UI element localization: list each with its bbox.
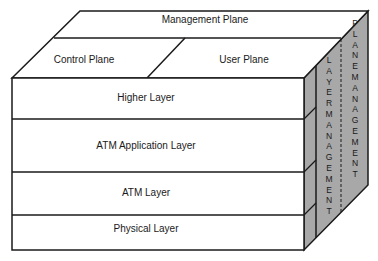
svg-text:A: A [352,40,358,50]
svg-text:N: N [352,50,358,60]
svg-text:A: A [326,66,332,76]
svg-text:T: T [352,169,357,179]
svg-text:E: E [352,148,358,158]
atm-layer-label: ATM Layer [122,187,171,198]
svg-text:Y: Y [326,77,332,87]
layer-management-label: LAYERMANAGEMENT [325,55,332,216]
svg-text:N: N [326,131,332,141]
svg-text:L: L [353,29,358,39]
svg-text:M: M [351,137,358,147]
svg-text:M: M [325,109,332,119]
svg-text:M: M [325,174,332,184]
higher-layer-label: Higher Layer [117,92,175,103]
physical-layer-label: Physical Layer [113,223,179,234]
svg-text:N: N [352,94,358,104]
atm-reference-model-diagram: Management Plane Control Plane User Plan… [0,0,378,261]
svg-text:N: N [326,195,332,205]
atm-application-layer-label: ATM Application Layer [96,140,196,151]
control-plane-label: Control Plane [54,54,115,65]
plane-management-label: PLANEMANAGEMENT [351,18,358,179]
svg-text:E: E [326,163,332,173]
svg-text:T: T [326,206,331,216]
svg-text:A: A [352,83,358,93]
user-plane-label: User Plane [219,54,269,65]
svg-text:A: A [326,141,332,151]
svg-text:R: R [326,98,332,108]
svg-text:M: M [351,72,358,82]
svg-text:A: A [352,104,358,114]
svg-text:G: G [326,152,333,162]
svg-text:L: L [327,55,332,65]
svg-text:E: E [326,87,332,97]
svg-text:P: P [352,18,358,28]
svg-text:E: E [326,185,332,195]
svg-text:E: E [352,126,358,136]
svg-text:N: N [352,158,358,168]
svg-text:E: E [352,61,358,71]
management-plane-label: Management Plane [162,14,249,25]
svg-text:A: A [326,120,332,130]
svg-text:G: G [352,115,359,125]
